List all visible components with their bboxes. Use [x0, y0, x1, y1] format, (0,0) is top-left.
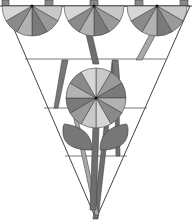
flower-center — [156, 5, 159, 8]
center-full-flower — [66, 68, 126, 128]
quilt-pennant-illustration — [0, 0, 192, 221]
flower-center — [93, 5, 96, 8]
flower-center — [95, 97, 98, 100]
flower-center — [31, 5, 34, 8]
